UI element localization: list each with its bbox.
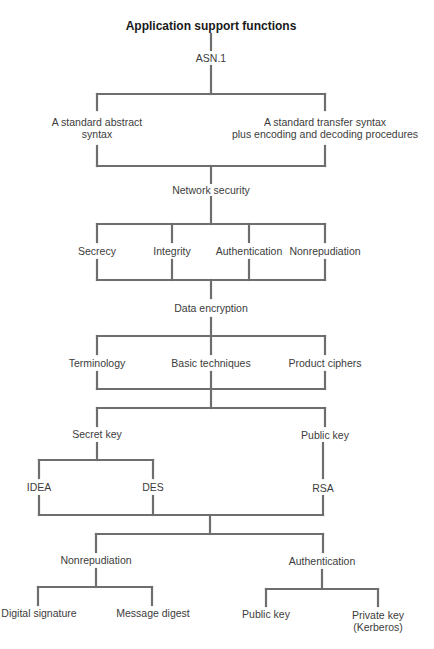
node-private-key-line1: Private key bbox=[338, 609, 418, 621]
node-integrity: Integrity bbox=[152, 245, 191, 257]
node-transfer-syntax-line2: plus encoding and decoding procedures bbox=[230, 128, 420, 140]
node-des: DES bbox=[141, 481, 165, 493]
node-asn1: ASN.1 bbox=[195, 52, 227, 64]
node-data-encryption: Data encryption bbox=[173, 302, 249, 314]
node-secrecy: Secrecy bbox=[77, 245, 117, 257]
node-abstract-syntax-line1: A standard abstract bbox=[37, 116, 157, 128]
node-network-security: Network security bbox=[171, 184, 251, 196]
node-transfer-syntax: A standard transfer syntax plus encoding… bbox=[229, 116, 421, 140]
connector-lines bbox=[0, 0, 434, 649]
node-terminology: Terminology bbox=[68, 357, 127, 369]
node-nonrepudiation-2: Nonrepudiation bbox=[59, 554, 132, 566]
node-authentication: Authentication bbox=[215, 245, 284, 257]
node-basic-techniques: Basic techniques bbox=[170, 357, 251, 369]
node-abstract-syntax-line2: syntax bbox=[37, 128, 157, 140]
node-authentication-2: Authentication bbox=[288, 555, 357, 567]
node-secret-key: Secret key bbox=[71, 428, 123, 440]
node-nonrepudiation: Nonrepudiation bbox=[288, 245, 361, 257]
diagram-title: Application support functions bbox=[126, 19, 297, 33]
node-message-digest: Message digest bbox=[115, 607, 191, 619]
node-private-key-line2: (Kerberos) bbox=[338, 621, 418, 633]
node-digital-signature: Digital signature bbox=[0, 607, 77, 619]
node-transfer-syntax-line1: A standard transfer syntax bbox=[230, 116, 420, 128]
node-public-key-2: Public key bbox=[241, 608, 291, 620]
node-idea: IDEA bbox=[26, 481, 53, 493]
node-public-key: Public key bbox=[300, 429, 350, 441]
node-product-ciphers: Product ciphers bbox=[288, 357, 363, 369]
node-rsa: RSA bbox=[311, 482, 335, 494]
node-abstract-syntax: A standard abstract syntax bbox=[36, 116, 158, 140]
node-private-key: Private key (Kerberos) bbox=[337, 609, 419, 633]
